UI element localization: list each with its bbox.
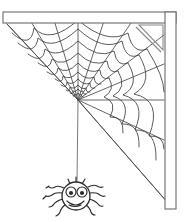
spider-leg-l3 [49,199,63,207]
illustration-svg [0,0,191,222]
spider-pupil-left [69,191,73,195]
corner-gusset-bracket [139,25,163,50]
corner-gusset-bracket-inner [136,27,161,52]
web-radial-7 [78,35,164,100]
spider-leg-l-tip2 [43,196,46,199]
spider-leg-r2 [90,193,105,197]
horizontal-beam [3,12,176,23]
web-ring-14 [134,55,164,149]
spider-leg-l4 [56,204,66,216]
web-boundary-edges [7,24,168,203]
web-rings [12,20,164,160]
web-radial-11 [78,100,168,203]
web-ring-9 [18,29,139,56]
spider-web-group [7,20,168,203]
spider-drop-thread [77,101,78,183]
web-ring-11 [104,78,123,133]
spider-pupil-right [80,191,84,195]
spider-leg-l2 [46,193,62,197]
web-radials [7,20,168,203]
web-ring-12 [113,71,139,147]
spider-leg-l1 [49,186,64,188]
spider-web-corner-illustration: Spider Web in Corner with Hanging Spider [0,0,191,222]
corner-frame-group [3,12,176,209]
vertical-beam [165,12,176,209]
web-radial-10 [78,100,164,140]
web-ring-13 [123,63,156,160]
spider-leg-r3 [89,199,103,206]
spider-group [43,177,105,216]
web-radial-1 [7,24,78,100]
spider-leg-r1 [88,185,103,187]
